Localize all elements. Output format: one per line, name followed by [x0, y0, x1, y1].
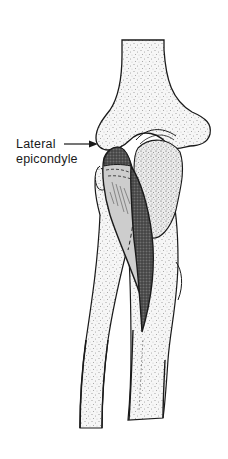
humerus-bone: [96, 40, 210, 150]
lateral-epicondyle-arrow: [64, 141, 98, 148]
annotation-label-line2: epicondyle: [16, 152, 78, 166]
elbow-anatomy-figure: [0, 0, 228, 459]
annotation-label-line1: Lateral: [16, 137, 56, 151]
